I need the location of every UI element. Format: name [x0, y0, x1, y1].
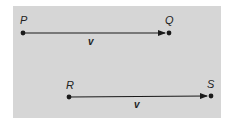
point-p-dot: [21, 31, 26, 36]
point-r-dot: [67, 95, 72, 100]
vector-pq-label: v: [88, 36, 95, 47]
point-q-dot: [167, 31, 172, 36]
vector-pq: P Q v: [20, 14, 174, 47]
vector-rs-label: v: [134, 99, 141, 110]
vector-diagram: P Q v R S v: [0, 0, 233, 123]
point-r-label: R: [66, 79, 74, 91]
point-s-label: S: [207, 78, 215, 90]
vector-rs: R S v: [66, 78, 215, 110]
point-s-dot: [209, 94, 214, 99]
point-p-label: P: [20, 14, 28, 26]
point-q-label: Q: [165, 14, 174, 26]
